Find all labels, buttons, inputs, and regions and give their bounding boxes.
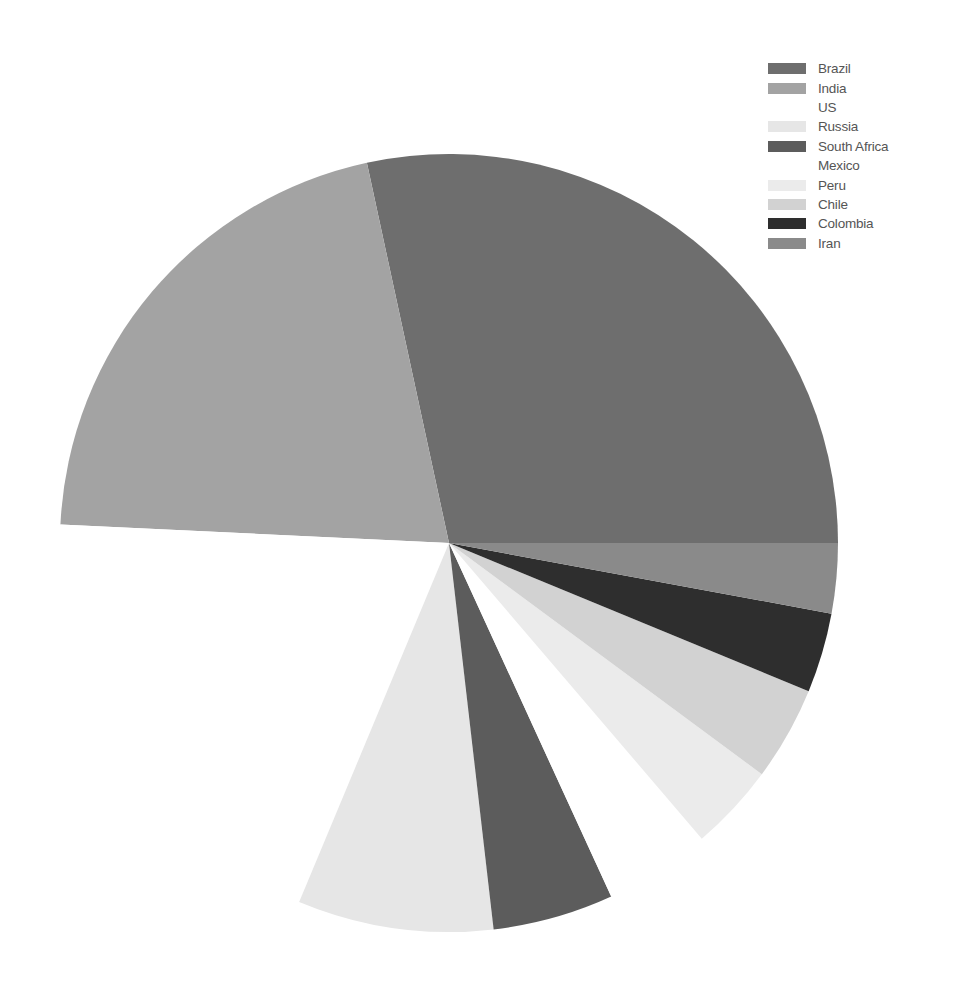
legend-item-brazil: Brazil (768, 59, 968, 78)
legend-item-us: US (768, 98, 968, 117)
legend-swatch-icon (768, 121, 806, 132)
legend-label: Peru (818, 178, 846, 193)
legend-swatch-icon (768, 238, 806, 249)
legend-swatch-icon (768, 218, 806, 229)
legend-item-mexico: Mexico (768, 156, 968, 175)
legend-swatch-icon (768, 83, 806, 94)
legend-label: Colombia (818, 216, 873, 231)
legend-item-chile: Chile (768, 195, 968, 214)
legend-label: India (818, 81, 846, 96)
legend-item-iran: Iran (768, 234, 968, 253)
legend-label: Russia (818, 119, 858, 134)
legend-swatch-icon (768, 199, 806, 210)
legend-label: Chile (818, 197, 848, 212)
legend-label: US (818, 100, 836, 115)
legend-swatch-icon (768, 141, 806, 152)
legend-item-colombia: Colombia (768, 214, 968, 233)
legend-item-russia: Russia (768, 117, 968, 136)
legend: Brazil India US Russia South Africa Mexi… (768, 59, 968, 253)
legend-swatch-icon (768, 102, 806, 113)
legend-swatch-icon (768, 63, 806, 74)
legend-label: Mexico (818, 158, 860, 173)
legend-item-peru: Peru (768, 175, 968, 194)
legend-label: Brazil (818, 61, 851, 76)
legend-swatch-icon (768, 160, 806, 171)
legend-label: Iran (818, 236, 840, 251)
legend-label: South Africa (818, 139, 888, 154)
legend-item-india: India (768, 78, 968, 97)
pie-slices (60, 154, 838, 932)
legend-swatch-icon (768, 180, 806, 191)
legend-item-south-africa: South Africa (768, 137, 968, 156)
